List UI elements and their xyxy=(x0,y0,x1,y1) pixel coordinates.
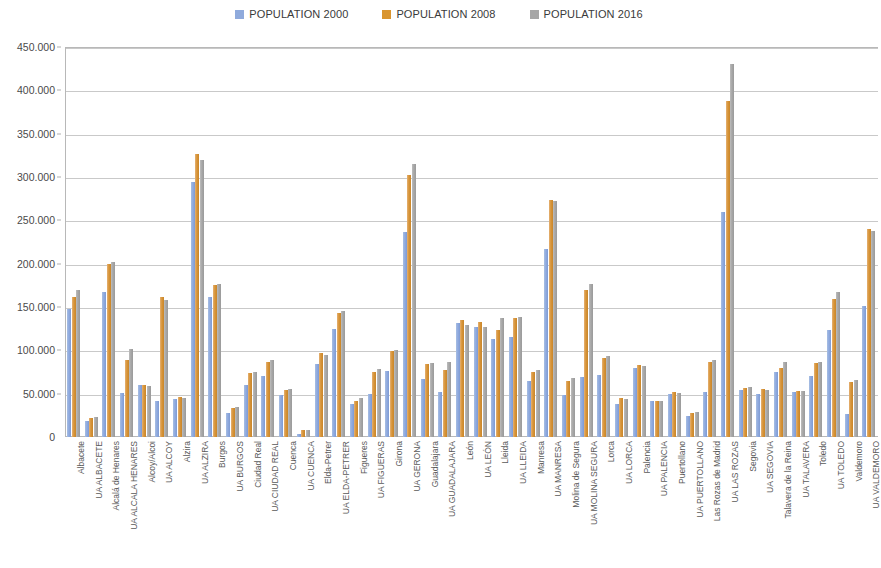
bar[interactable] xyxy=(226,413,230,437)
bar-group[interactable] xyxy=(436,47,454,437)
bar-group[interactable] xyxy=(171,47,189,437)
bar-group[interactable] xyxy=(312,47,330,437)
bar[interactable] xyxy=(377,369,381,437)
bar[interactable] xyxy=(447,362,451,437)
bar[interactable] xyxy=(319,353,323,437)
bar[interactable] xyxy=(571,378,575,437)
bar[interactable] xyxy=(107,264,111,437)
bar[interactable] xyxy=(491,339,495,437)
bar-group[interactable] xyxy=(648,47,666,437)
bar[interactable] xyxy=(796,391,800,437)
legend-entry[interactable]: POPULATION 2008 xyxy=(382,8,495,20)
bar-group[interactable] xyxy=(383,47,401,437)
bar[interactable] xyxy=(589,284,593,437)
bar[interactable] xyxy=(619,398,623,437)
bar-group[interactable] xyxy=(666,47,684,437)
bar[interactable] xyxy=(385,371,389,437)
bar-group[interactable] xyxy=(631,47,649,437)
bar[interactable] xyxy=(390,351,394,437)
bar-group[interactable] xyxy=(737,47,755,437)
bar[interactable] xyxy=(231,408,235,437)
bar-group[interactable] xyxy=(100,47,118,437)
bar[interactable] xyxy=(836,292,840,437)
bar[interactable] xyxy=(178,397,182,437)
bar[interactable] xyxy=(765,390,769,437)
bar[interactable] xyxy=(686,416,690,437)
bar-group[interactable] xyxy=(860,47,878,437)
bar[interactable] xyxy=(85,421,89,437)
bar[interactable] xyxy=(814,363,818,437)
bar[interactable] xyxy=(818,362,822,437)
bar[interactable] xyxy=(756,394,760,437)
bar[interactable] xyxy=(213,285,217,437)
bar-group[interactable] xyxy=(578,47,596,437)
bar[interactable] xyxy=(465,325,469,437)
bar-group[interactable] xyxy=(719,47,737,437)
bar[interactable] xyxy=(483,327,487,437)
bar-group[interactable] xyxy=(454,47,472,437)
bar[interactable] xyxy=(721,212,725,437)
bar[interactable] xyxy=(421,379,425,437)
bar[interactable] xyxy=(544,249,548,437)
bar-group[interactable] xyxy=(825,47,843,437)
bar[interactable] xyxy=(279,395,283,437)
bar-group[interactable] xyxy=(295,47,313,437)
bar[interactable] xyxy=(129,349,133,437)
bar[interactable] xyxy=(430,363,434,437)
bar[interactable] xyxy=(553,201,557,437)
bar[interactable] xyxy=(602,358,606,437)
bar[interactable] xyxy=(372,372,376,437)
bar[interactable] xyxy=(712,360,716,437)
bar[interactable] xyxy=(456,323,460,437)
bar[interactable] xyxy=(147,386,151,437)
bar-group[interactable] xyxy=(843,47,861,437)
bar[interactable] xyxy=(615,404,619,437)
bar-group[interactable] xyxy=(472,47,490,437)
bar[interactable] xyxy=(182,398,186,437)
bar[interactable] xyxy=(854,380,858,437)
bar-group[interactable] xyxy=(560,47,578,437)
bar[interactable] xyxy=(284,390,288,437)
bar-group[interactable] xyxy=(277,47,295,437)
legend-entry[interactable]: POPULATION 2000 xyxy=(235,8,348,20)
bar[interactable] xyxy=(67,309,71,437)
bar-group[interactable] xyxy=(790,47,808,437)
bar[interactable] xyxy=(531,372,535,437)
bar[interactable] xyxy=(474,327,478,437)
bar[interactable] xyxy=(89,418,93,437)
bar[interactable] xyxy=(270,360,274,437)
bar-group[interactable] xyxy=(701,47,719,437)
bar[interactable] xyxy=(527,381,531,437)
bar-group[interactable] xyxy=(489,47,507,437)
bar[interactable] xyxy=(496,330,500,437)
bar[interactable] xyxy=(871,231,875,437)
bar-group[interactable] xyxy=(595,47,613,437)
bar[interactable] xyxy=(425,364,429,437)
bar[interactable] xyxy=(120,393,124,437)
bar[interactable] xyxy=(708,362,712,437)
bar[interactable] xyxy=(407,175,411,437)
bar[interactable] xyxy=(412,164,416,437)
bar[interactable] xyxy=(248,373,252,437)
bar[interactable] xyxy=(730,64,734,437)
bar[interactable] xyxy=(111,262,115,437)
bar[interactable] xyxy=(394,350,398,437)
bar[interactable] xyxy=(827,330,831,437)
bar[interactable] xyxy=(549,200,553,437)
bar[interactable] xyxy=(849,382,853,437)
bar-group[interactable] xyxy=(259,47,277,437)
bar[interactable] xyxy=(761,389,765,437)
bar-group[interactable] xyxy=(206,47,224,437)
legend-entry[interactable]: POPULATION 2016 xyxy=(530,8,643,20)
bar[interactable] xyxy=(862,306,866,437)
bar[interactable] xyxy=(142,385,146,437)
bar[interactable] xyxy=(672,392,676,437)
bar-group[interactable] xyxy=(772,47,790,437)
bar[interactable] xyxy=(509,337,513,437)
bar[interactable] xyxy=(244,385,248,437)
bar-group[interactable] xyxy=(401,47,419,437)
bar[interactable] xyxy=(580,377,584,437)
bar[interactable] xyxy=(235,407,239,437)
bar-group[interactable] xyxy=(684,47,702,437)
bar[interactable] xyxy=(783,362,787,437)
